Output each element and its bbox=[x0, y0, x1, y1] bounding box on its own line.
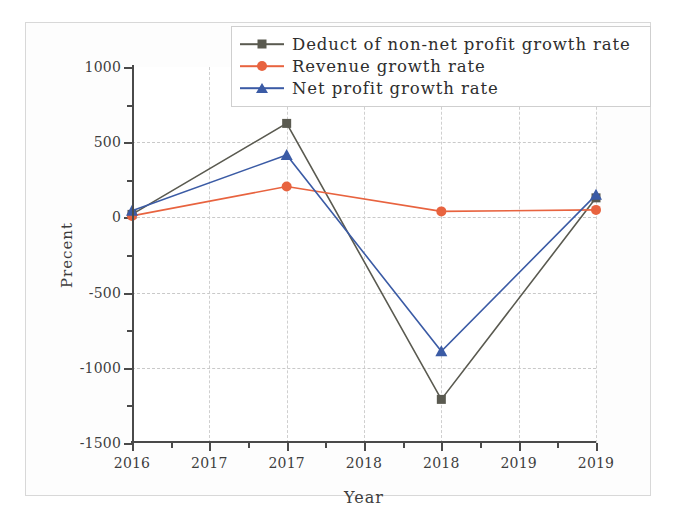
y-tick-label: 1000 bbox=[85, 59, 121, 75]
x-tick-minor bbox=[171, 443, 173, 448]
series-line bbox=[132, 123, 596, 399]
y-tick-major bbox=[124, 67, 132, 69]
x-tick-label: 2018 bbox=[423, 455, 459, 471]
y-tick-major bbox=[124, 293, 132, 295]
legend-marker-square-icon bbox=[258, 40, 267, 49]
x-tick-label: 2017 bbox=[268, 455, 304, 471]
legend-marker-triangle-icon bbox=[256, 83, 268, 93]
y-tick-major bbox=[124, 142, 132, 144]
y-tick-major bbox=[124, 443, 132, 445]
legend-marker-circle-icon bbox=[257, 61, 267, 71]
legend-item[interactable]: Deduct of non-net profit growth rate bbox=[240, 33, 642, 55]
x-tick-label: 2018 bbox=[346, 455, 382, 471]
gridline-vertical bbox=[596, 67, 597, 443]
y-axis-spine bbox=[132, 65, 134, 444]
x-tick-major bbox=[287, 443, 289, 451]
data-point-marker bbox=[436, 206, 446, 216]
legend-label: Revenue growth rate bbox=[292, 57, 486, 76]
y-tick-label: -500 bbox=[89, 285, 121, 301]
legend-item[interactable]: Revenue growth rate bbox=[240, 55, 642, 77]
x-tick-major bbox=[209, 443, 211, 451]
legend-sample bbox=[240, 35, 284, 53]
data-point-marker bbox=[437, 395, 446, 404]
x-axis-title: Year bbox=[132, 488, 596, 507]
x-tick-major bbox=[364, 443, 366, 451]
plot-area: 10005000-500-1000-1500201620172017201820… bbox=[132, 67, 596, 443]
legend-sample bbox=[240, 79, 284, 97]
x-tick-label: 2016 bbox=[114, 455, 150, 471]
x-tick-major bbox=[596, 443, 598, 451]
series-line bbox=[132, 155, 596, 351]
x-tick-minor bbox=[480, 443, 482, 448]
x-tick-label: 2019 bbox=[578, 455, 614, 471]
x-tick-label: 2019 bbox=[500, 455, 536, 471]
x-tick-minor bbox=[557, 443, 559, 448]
y-tick-label: 0 bbox=[112, 209, 121, 225]
x-tick-major bbox=[441, 443, 443, 451]
data-point-marker bbox=[591, 205, 601, 215]
data-point-marker bbox=[282, 182, 292, 192]
y-tick-major bbox=[124, 368, 132, 370]
x-tick-minor bbox=[325, 443, 327, 448]
x-tick-minor bbox=[403, 443, 405, 448]
x-tick-major bbox=[519, 443, 521, 451]
legend-item[interactable]: Net profit growth rate bbox=[240, 77, 642, 99]
y-tick-label: -1000 bbox=[80, 360, 121, 376]
y-tick-label: -1500 bbox=[80, 435, 121, 451]
x-tick-minor bbox=[248, 443, 250, 448]
y-tick-label: 500 bbox=[94, 134, 121, 150]
x-tick-major bbox=[132, 443, 134, 451]
data-point-marker bbox=[282, 119, 291, 128]
x-tick-label: 2017 bbox=[191, 455, 227, 471]
legend-label: Net profit growth rate bbox=[292, 79, 499, 98]
series-layer bbox=[132, 67, 596, 443]
legend: Deduct of non-net profit growth rateReve… bbox=[231, 26, 651, 107]
legend-sample bbox=[240, 57, 284, 75]
figure-frame: 10005000-500-1000-1500201620172017201820… bbox=[25, 22, 651, 496]
x-axis-spine bbox=[131, 441, 596, 443]
legend-label: Deduct of non-net profit growth rate bbox=[292, 35, 631, 54]
series-line bbox=[132, 187, 596, 216]
y-axis-title: Precent bbox=[58, 222, 76, 288]
data-point-marker bbox=[281, 149, 293, 160]
